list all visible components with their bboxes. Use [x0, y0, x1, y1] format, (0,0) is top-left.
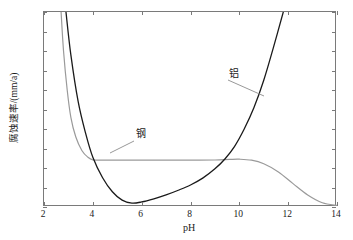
series-label-steel: 钢: [136, 128, 146, 139]
corrosion-rate-ph-chart: 2468101214 00.10.20.30.40.50.60.70.80.91…: [0, 0, 353, 240]
x-axis-title: pH: [183, 222, 195, 233]
y-axis-title: 腐蚀速率/(mm/a): [6, 43, 20, 173]
series-label-aluminum: 铝: [229, 68, 239, 79]
y-axis-tick-labels: 00.10.20.30.40.50.60.70.80.91: [0, 0, 353, 240]
